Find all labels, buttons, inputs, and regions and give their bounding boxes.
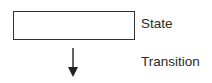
state-label: State bbox=[141, 16, 173, 31]
state-symbol bbox=[13, 11, 135, 40]
down-arrow-icon bbox=[66, 48, 80, 78]
transition-label: Transition bbox=[141, 54, 200, 69]
